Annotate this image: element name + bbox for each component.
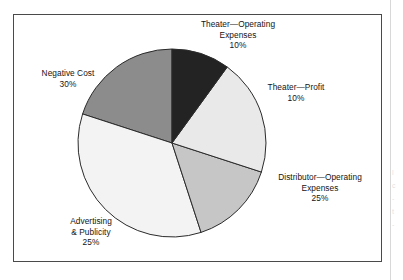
pie-label-theater-profit: Theater—Profit 10%	[248, 82, 344, 103]
margin-artifact-line: l	[392, 166, 403, 179]
pie-label-line-2: Expenses	[256, 183, 384, 194]
margin-artifact-line: -	[392, 192, 403, 205]
pie-label-advertising-publicity: Advertising & Publicity 25%	[48, 216, 134, 248]
page-edge-line	[390, 0, 391, 280]
pie-label-value: 10%	[178, 40, 298, 51]
pie-label-line-1: Distributor—Operating	[256, 172, 384, 183]
pie-label-line-1: Negative Cost	[22, 68, 114, 79]
margin-artifact-line: c	[392, 179, 403, 192]
margin-artifact-line: t	[392, 205, 403, 218]
margin-artifact-line: -	[392, 218, 403, 231]
pie-label-line-1: Theater—Operating	[178, 19, 298, 30]
margin-text-artifact: l c - t -	[392, 166, 403, 242]
pie-label-value: 25%	[48, 237, 134, 248]
pie-label-value: 30%	[22, 79, 114, 90]
pie-label-line-2: Expenses	[178, 30, 298, 41]
pie-label-value: 25%	[256, 193, 384, 204]
pie-label-line-1: Theater—Profit	[248, 82, 344, 93]
pie-label-value: 10%	[248, 93, 344, 104]
pie-label-line-2: & Publicity	[48, 227, 134, 238]
pie-label-distributor-operating-expenses: Distributor—Operating Expenses 25%	[256, 172, 384, 204]
pie-label-theater-operating-expenses: Theater—Operating Expenses 10%	[178, 19, 298, 51]
pie-chart-figure: Theater—Operating Expenses 10% Theater—P…	[0, 0, 403, 280]
pie-label-line-1: Advertising	[48, 216, 134, 227]
pie-label-negative-cost: Negative Cost 30%	[22, 68, 114, 89]
